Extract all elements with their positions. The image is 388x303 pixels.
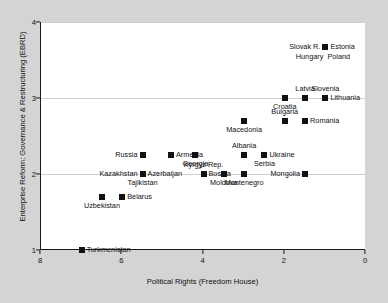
x-tick-label: 0	[363, 256, 367, 265]
data-point-label: Tajikistan	[128, 179, 158, 187]
x-tick-label: 8	[38, 256, 42, 265]
data-point-label: Estonia	[330, 43, 354, 51]
x-tick-mark	[202, 250, 203, 254]
data-point	[140, 152, 146, 158]
scatter-plot-figure: 1234 Enterprise Reform: Governance & Res…	[0, 0, 388, 303]
x-axis-label: Political Rights (Freedom House)	[40, 277, 365, 286]
data-point-label: Romania	[310, 117, 339, 125]
data-point-label: Russia	[115, 151, 137, 159]
x-tick-mark	[283, 250, 284, 254]
data-point	[140, 171, 146, 177]
x-tick-label: 6	[119, 256, 123, 265]
data-point	[302, 118, 308, 124]
gridline	[41, 22, 365, 23]
data-point	[241, 118, 247, 124]
x-tick-label: 4	[200, 256, 204, 265]
y-axis-label: Enterprise Reform: Governance & Restruct…	[18, 27, 27, 227]
data-point	[119, 194, 125, 200]
data-point	[322, 95, 328, 101]
data-point-label: Hungary	[296, 53, 324, 61]
data-point-label: Albania	[232, 142, 256, 150]
data-point	[302, 171, 308, 177]
data-point	[302, 95, 308, 101]
data-point-label: Belarus	[127, 193, 152, 201]
data-point-label: Mongolia	[270, 170, 300, 178]
data-point	[79, 247, 85, 253]
gridline	[41, 98, 365, 99]
plot-area: TurkmenistanUzbekistanBelarusKazakhstanA…	[40, 22, 365, 250]
x-tick-mark	[121, 250, 122, 254]
data-point	[99, 194, 105, 200]
plot-canvas: TurkmenistanUzbekistanBelarusKazakhstanA…	[41, 22, 365, 249]
data-point-label: Bosnia	[209, 170, 231, 178]
data-point	[241, 171, 247, 177]
data-point	[322, 44, 328, 50]
x-tick-mark	[39, 250, 40, 254]
data-point-label: Uzbekistan	[84, 202, 120, 210]
data-point-label: Montenegro	[225, 179, 264, 187]
data-point-label: Poland	[327, 53, 350, 61]
data-point-label: Bulgaria	[271, 108, 298, 116]
data-point-label: Lithuania	[330, 94, 360, 102]
data-point-label: Kazakhstan	[99, 170, 137, 178]
data-point	[192, 152, 198, 158]
x-tick-mark	[364, 250, 365, 254]
data-point	[282, 95, 288, 101]
data-point	[241, 152, 247, 158]
data-point-label: Macedonia	[226, 126, 262, 134]
data-point	[201, 171, 207, 177]
data-point-label: Kyrgyz Rep.	[184, 161, 224, 169]
y-tick-mark	[36, 21, 40, 22]
data-point-label: Slovenia	[311, 85, 339, 93]
y-tick-mark	[36, 173, 40, 174]
data-point-label: Turkmenistan	[87, 246, 131, 254]
data-point-label: Ukraine	[269, 151, 294, 159]
data-point	[261, 152, 267, 158]
y-tick-label: 1	[16, 246, 36, 255]
y-tick-label: 4	[16, 18, 36, 27]
data-point-label: Armenia	[176, 151, 203, 159]
data-point-label: Serbia	[254, 160, 275, 168]
data-point	[221, 171, 227, 177]
data-point	[282, 118, 288, 124]
data-point-label: Slovak R.	[289, 43, 320, 51]
y-tick-mark	[36, 97, 40, 98]
data-point	[168, 152, 174, 158]
data-point-label: Azerbaijan	[148, 170, 182, 178]
x-tick-label: 2	[282, 256, 286, 265]
